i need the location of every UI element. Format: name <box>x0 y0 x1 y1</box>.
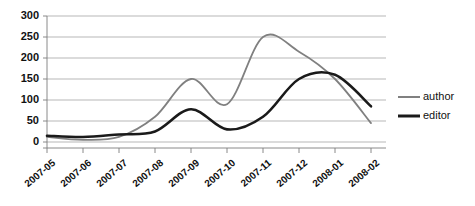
y-tick-label: 250 <box>21 30 39 42</box>
x-tick-label: 2007-06 <box>58 157 94 189</box>
x-tick-label: 2007-09 <box>166 157 202 189</box>
x-tick-label: 2008-01 <box>310 157 346 189</box>
x-tick-label: 2007-07 <box>94 157 130 189</box>
x-tick-label: 2007-05 <box>22 157 58 189</box>
x-tick-labels: 2007-052007-062007-072007-082007-092007-… <box>22 157 382 189</box>
x-tick-label: 2008-02 <box>346 157 382 189</box>
x-axis <box>43 148 386 153</box>
legend-label-editor: editor <box>423 109 451 121</box>
y-tick-label: 100 <box>21 93 39 105</box>
data-series <box>47 34 371 139</box>
x-tick-label: 2007-08 <box>130 157 166 189</box>
series-line-author <box>47 34 371 139</box>
y-tick-label: 200 <box>21 51 39 63</box>
chart-svg: 050100150200250300 2007-052007-062007-07… <box>0 0 475 206</box>
y-tick-label: 150 <box>21 72 39 84</box>
legend-label-author: author <box>423 90 455 102</box>
x-tick-label: 2007-12 <box>274 157 310 189</box>
y-tick-label: 300 <box>21 9 39 21</box>
y-tick-labels: 050100150200250300 <box>21 9 39 147</box>
y-axis <box>43 16 47 148</box>
chart-legend: authoreditor <box>398 90 455 121</box>
y-tick-label: 0 <box>33 135 39 147</box>
series-line-editor <box>47 72 371 137</box>
y-tick-label: 50 <box>27 114 39 126</box>
line-chart: 050100150200250300 2007-052007-062007-07… <box>0 0 475 206</box>
x-tick-label: 2007-10 <box>202 157 238 189</box>
x-tick-label: 2007-11 <box>239 157 274 189</box>
